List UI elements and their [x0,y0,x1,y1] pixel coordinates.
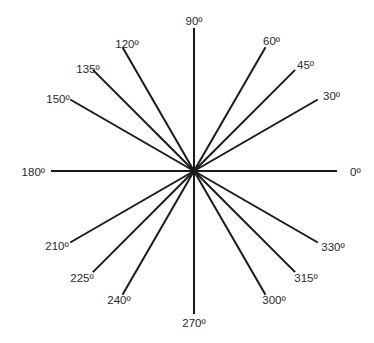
angle-label-45: 45º [297,59,315,71]
angle-label-30: 30º [323,90,341,102]
angle-label-135: 135º [76,63,100,75]
angle-diagram: 0º30º45º60º90º120º135º150º180º210º225º24… [0,0,374,343]
angle-label-315: 315º [294,272,318,284]
angle-label-60: 60º [263,35,281,47]
angle-label-90: 90º [186,15,204,27]
angle-label-180: 180º [22,166,46,178]
angle-label-225: 225º [70,272,94,284]
angle-label-210: 210º [45,240,69,252]
angle-label-240: 240º [107,294,131,306]
angle-label-270: 270º [182,317,206,329]
angle-label-120: 120º [115,38,139,50]
angle-label-0: 0º [350,166,361,178]
angle-label-300: 300º [262,294,286,306]
angle-label-330: 330º [321,241,345,253]
angle-label-150: 150º [46,93,70,105]
